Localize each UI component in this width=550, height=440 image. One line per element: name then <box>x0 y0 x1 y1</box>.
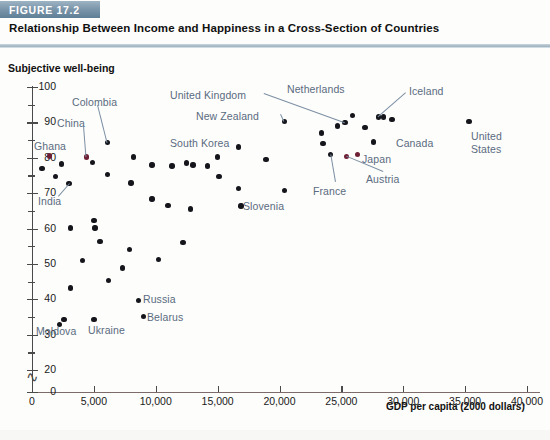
data-point-15 <box>97 239 102 244</box>
data-point-42 <box>282 188 287 193</box>
label-slovenia: Slovenia <box>243 200 284 212</box>
label-iceland: Iceland <box>409 85 444 97</box>
x-tick-20000 <box>280 386 281 392</box>
label-belarus: Belarus <box>147 311 183 323</box>
y-tick-label-100: 100 <box>26 80 56 92</box>
label-colombia: Colombia <box>72 96 117 108</box>
data-point-russia <box>136 298 141 303</box>
figure-title: Relationship Between Income and Happines… <box>9 22 439 34</box>
data-point-3 <box>53 174 58 179</box>
data-point-17 <box>105 172 110 177</box>
x-tick-label-0: 0 <box>2 395 62 407</box>
data-point-46 <box>335 123 340 128</box>
label-ghana: Ghana <box>34 140 66 152</box>
data-point-18 <box>106 278 111 283</box>
x-tick-label-5000: 5,000 <box>64 395 124 407</box>
figure-number-text: FIGURE 17.2 <box>0 4 80 16</box>
x-tick-label-35000: 35,000 <box>435 395 495 407</box>
data-point-19 <box>120 265 125 270</box>
data-point-33 <box>188 206 193 211</box>
figure-number-badge: FIGURE 17.2 <box>0 1 100 18</box>
data-point-1 <box>39 166 44 171</box>
figure-root: FIGURE 17.2 Relationship Between Income … <box>0 0 550 440</box>
y-axis-title: Subjective well-being <box>8 62 115 74</box>
y-tick-label-60: 60 <box>26 222 56 234</box>
x-tick-label-40000: 40,000 <box>497 395 550 407</box>
label-india: India <box>38 195 61 207</box>
y-tick-minor-55 <box>28 246 35 247</box>
data-point-5 <box>61 317 66 322</box>
label-netherlands: Netherlands <box>287 83 345 95</box>
leader-line-india <box>58 183 70 196</box>
data-point-20 <box>127 247 132 252</box>
data-point-belarus <box>141 314 146 319</box>
x-tick-label-20000: 20,000 <box>250 395 310 407</box>
data-point-south-korea <box>215 154 220 159</box>
data-point-13 <box>92 225 97 230</box>
label-austria: Austria <box>366 173 399 185</box>
data-point-ghana <box>47 153 52 158</box>
x-tick-25000 <box>341 386 342 392</box>
label-france: France <box>313 185 346 197</box>
data-point-7 <box>68 285 73 290</box>
data-point-21 <box>131 154 136 159</box>
data-point-32 <box>190 162 195 167</box>
page-bottom-edge <box>0 430 550 440</box>
data-point-54 <box>389 117 394 122</box>
y-tick-label-50: 50 <box>26 257 56 269</box>
x-tick-0 <box>32 386 33 392</box>
x-tick-10000 <box>156 386 157 392</box>
x-axis-line <box>32 392 540 393</box>
label-canada: Canada <box>396 137 433 149</box>
x-tick-label-30000: 30,000 <box>373 395 433 407</box>
data-point-37 <box>236 144 241 149</box>
leader-line-china <box>83 126 86 157</box>
data-point-canada <box>371 139 376 144</box>
data-point-43 <box>319 130 324 135</box>
data-point-11 <box>90 160 95 165</box>
data-point-28 <box>169 163 174 168</box>
y-tick-minor-65 <box>28 211 35 212</box>
leader-line-france <box>330 154 336 182</box>
label-china: China <box>57 117 85 129</box>
data-point-25 <box>149 162 154 167</box>
x-tick-label-25000: 25,000 <box>311 395 371 407</box>
data-point-9 <box>80 258 85 263</box>
data-point-38 <box>236 186 241 191</box>
label-united-kingdom: United Kingdom <box>170 89 246 101</box>
label-united-states: United States <box>471 130 529 155</box>
data-point-japan <box>355 152 360 157</box>
y-tick-minor-35 <box>28 317 35 318</box>
y-tick-label-40: 40 <box>26 292 56 304</box>
data-point-26 <box>149 196 154 201</box>
leader-line-united-kingdom <box>264 93 345 123</box>
x-tick-35000 <box>465 386 466 392</box>
data-point-36 <box>216 174 221 179</box>
label-russia: Russia <box>143 293 176 305</box>
data-point-27 <box>156 257 161 262</box>
label-ukraine: Ukraine <box>88 324 125 336</box>
data-point-29 <box>165 203 170 208</box>
y-axis-line <box>32 86 33 386</box>
x-tick-40000 <box>527 386 528 392</box>
x-tick-15000 <box>218 386 219 392</box>
x-tick-30000 <box>403 386 404 392</box>
y-tick-label-90: 90 <box>26 115 56 127</box>
data-point-22 <box>128 180 133 185</box>
data-point-12 <box>91 218 96 223</box>
y-tick-minor-45 <box>28 282 35 283</box>
leader-line-colombia <box>97 105 107 143</box>
data-point-44 <box>320 141 325 146</box>
data-point-51 <box>362 125 367 130</box>
data-point-8 <box>68 225 73 230</box>
y-tick-minor-95 <box>28 105 35 106</box>
y-tick-label-20: 20 <box>26 363 56 375</box>
figure-header: FIGURE 17.2 Relationship Between Income … <box>0 0 550 48</box>
data-point-34 <box>205 163 210 168</box>
label-moldova: Moldova <box>36 325 76 337</box>
data-point-40 <box>263 157 268 162</box>
x-tick-5000 <box>94 386 95 392</box>
x-tick-label-10000: 10,000 <box>126 395 186 407</box>
leader-line-iceland <box>378 92 406 117</box>
label-new-zealand: New Zealand <box>196 110 259 122</box>
